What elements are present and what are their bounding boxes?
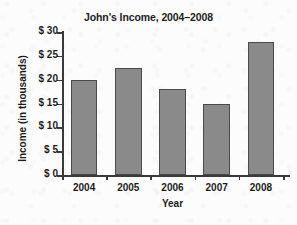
x-axis-tick-mark [62,175,64,180]
bar [248,42,275,175]
x-axis-tick-mark [150,175,152,180]
x-axis-category-label: 2008 [239,182,283,193]
y-axis-tick-label: $ 5 [44,144,58,155]
chart-title: John's Income, 2004–2008 [0,11,297,23]
bar [203,104,230,176]
y-axis-tick-label: $ 25 [39,49,58,60]
bar [71,80,98,175]
y-axis-tick-label: $ 15 [39,97,58,108]
x-axis-tick-mark [195,175,197,180]
y-axis-tick-label: $ 20 [39,73,58,84]
x-axis-tick-mark [239,175,241,180]
y-axis-tick-label: $ 30 [39,25,58,36]
x-axis-category-label: 2006 [150,182,194,193]
x-axis-category-label: 2007 [195,182,239,193]
y-axis-tick-label: $ 10 [39,120,58,131]
y-axis-title: Income (in thousands) [17,34,28,184]
bar [115,68,142,175]
x-axis-category-label: 2005 [106,182,150,193]
plot-area: $ 0$ 5$ 10$ 15$ 20$ 25$ 3020042005200620… [62,32,283,175]
x-axis-tick-mark [106,175,108,180]
x-axis-category-label: 2004 [62,182,106,193]
bar-chart: John's Income, 2004–2008 Income (in thou… [0,0,297,225]
x-axis-line [62,175,290,177]
x-axis-tick-mark [283,175,285,180]
x-axis-title: Year [62,198,283,209]
y-axis-tick-label: $ 0 [44,168,58,179]
bar [159,89,186,175]
